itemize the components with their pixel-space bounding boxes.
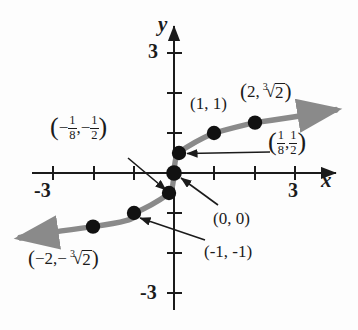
numerator: 1 (90, 114, 98, 127)
paren-open: ( (240, 79, 247, 103)
point-neg-eighth-neg-half (162, 186, 176, 200)
point-neg2-negcbrt2 (86, 219, 100, 233)
curve-left-arrow (19, 235, 40, 238)
point-label-origin: (0, 0) (213, 210, 250, 227)
paren-open: ( (28, 246, 35, 270)
point-label-neg-eighth-neg-half: (−18,−12) (50, 112, 107, 143)
cbrt-icon: 3√2 (67, 249, 92, 267)
numerator: 1 (277, 129, 285, 142)
point-origin (166, 165, 182, 181)
point-label-2-cbrt2: (2,3√2) (240, 80, 292, 101)
point-neg1-neg1 (127, 206, 141, 220)
point-eighth-half (172, 146, 186, 160)
paren-close: ) (99, 112, 108, 141)
denominator: 8 (277, 143, 285, 157)
paren-close: ) (285, 79, 292, 103)
y-axis-label: y (158, 14, 167, 35)
minus-sign: − (35, 249, 45, 268)
point-label-1-1: (1, 1) (190, 95, 227, 112)
point-2-cbrt2 (248, 115, 262, 129)
fraction-one-eighth: 18 (277, 129, 285, 156)
graph-canvas (0, 0, 358, 330)
x-tick-label-3: 3 (288, 180, 298, 200)
leader-origin (181, 178, 218, 205)
radical-index: 3 (70, 248, 75, 259)
numerator: 1 (68, 114, 76, 127)
point-label-neg1-neg1: (-1, -1) (204, 243, 252, 260)
cbrt-icon: 3√2 (260, 82, 285, 100)
paren-open: ( (268, 127, 277, 156)
minus-sign: − (81, 118, 91, 137)
fraction-one-eighth: 18 (68, 114, 76, 141)
paren-open: ( (50, 112, 59, 141)
cube-root-graph-figure: y x 3 -3 -3 3 (1, 1) (2,3√2) (18,12) (−1… (0, 0, 358, 330)
minus-sign: − (57, 249, 67, 268)
point-1-1 (207, 126, 221, 140)
leader-eighth-half (187, 152, 270, 154)
point-label-eighth-half: (18,12) (268, 127, 306, 158)
leader-neg1-neg1 (140, 218, 205, 240)
radicand-2: 2 (275, 83, 285, 101)
fraction-one-half: 12 (90, 114, 98, 141)
paren-close: ) (297, 127, 306, 156)
y-tick-label-neg3: -3 (140, 282, 157, 302)
radicand-2: 2 (82, 250, 92, 268)
x-value-2: 2 (247, 82, 256, 101)
y-tick-label-3: 3 (148, 41, 158, 61)
denominator: 8 (68, 128, 76, 142)
denominator: 2 (90, 128, 98, 142)
x-tick-label-neg3: -3 (34, 180, 51, 200)
radical-index: 3 (263, 81, 268, 92)
point-label-neg2-negcbrt2: (−2,−3√2) (28, 247, 99, 268)
minus-sign: − (59, 118, 69, 137)
curve-right-arrow (315, 110, 337, 114)
x-axis-label: x (321, 170, 332, 191)
x-value-2: 2 (45, 249, 54, 268)
paren-close: ) (92, 246, 99, 270)
